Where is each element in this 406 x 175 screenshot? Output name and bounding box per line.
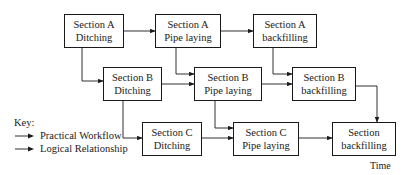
- node-line1: Section: [348, 126, 380, 139]
- legend-item-logical-relationship: Logical Relationship: [14, 142, 128, 155]
- node-line2: Pipe laying: [242, 139, 290, 152]
- node-section-b-backfilling: Section B backfilling: [292, 67, 356, 101]
- node-line1: Section C: [245, 126, 286, 139]
- arrow-a-back-to-b-back: [273, 48, 292, 74]
- arrow-icon: [14, 132, 36, 140]
- legend-label: Logical Relationship: [40, 142, 128, 155]
- node-line1: Section A: [73, 18, 114, 31]
- node-section-c-ditching: Section C Ditching: [142, 122, 202, 156]
- node-line1: Section B: [207, 71, 248, 84]
- node-line1: Section B: [112, 71, 153, 84]
- node-line2: backfilling: [341, 139, 387, 152]
- legend-title: Key:: [14, 116, 128, 129]
- legend-label: Practical Workflow: [40, 129, 121, 142]
- node-line2: Pipe laying: [204, 84, 252, 97]
- node-section-a-ditching: Section A Ditching: [64, 14, 124, 48]
- arrow-icon: [14, 145, 36, 153]
- node-line2: backfilling: [262, 31, 308, 44]
- node-line2: Ditching: [114, 84, 151, 97]
- node-line2: Ditching: [154, 139, 191, 152]
- node-section-c-pipe-laying: Section C Pipe laying: [233, 122, 299, 156]
- node-section-backfilling: Section backfilling: [332, 122, 396, 156]
- time-axis-label: Time: [370, 160, 391, 171]
- node-section-a-backfilling: Section A backfilling: [253, 14, 317, 48]
- arrow-a-ditch-to-b-ditch: [82, 48, 103, 81]
- node-line2: Ditching: [76, 31, 113, 44]
- node-section-b-ditching: Section B Ditching: [103, 67, 162, 101]
- legend-item-practical-workflow: Practical Workflow: [14, 129, 128, 142]
- arrow-a-pipe-to-b-pipe: [176, 48, 194, 74]
- node-line1: Section A: [167, 18, 208, 31]
- node-line1: Section B: [303, 71, 344, 84]
- node-section-a-pipe-laying: Section A Pipe laying: [155, 14, 221, 48]
- node-line1: Section C: [151, 126, 192, 139]
- node-line2: backfilling: [301, 84, 347, 97]
- node-line1: Section A: [264, 18, 305, 31]
- arrow-b-pipe-to-c-pipe: [215, 101, 233, 128]
- arrow-b-back-to-c-back: [356, 86, 377, 122]
- node-section-b-pipe-laying: Section B Pipe laying: [194, 67, 262, 101]
- node-line2: Pipe laying: [164, 31, 212, 44]
- legend: Key: Practical Workflow Logical Relation…: [14, 116, 128, 155]
